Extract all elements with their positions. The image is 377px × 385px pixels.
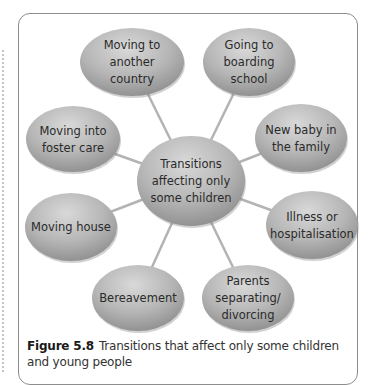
node-label: Illness or: [286, 210, 338, 224]
node-moving-into-foster-care: Moving intofoster care: [26, 106, 121, 174]
node-new-baby-in-the-family: New baby inthe family: [255, 104, 348, 174]
figure-number: Figure 5.8: [27, 339, 94, 353]
node-label: Going to: [225, 38, 274, 52]
node-moving-house: Moving house: [25, 193, 118, 263]
node-moving-to-another-country: Moving toanothercountry: [80, 28, 185, 98]
node-label: some children: [150, 191, 231, 205]
node-label: Transitions: [159, 157, 222, 171]
node-label: Parents: [227, 274, 270, 288]
node-label: another: [110, 55, 155, 69]
node-label: Bereavement: [99, 291, 177, 305]
node-center-transitions: Transitionsaffecting onlysome children: [137, 136, 246, 228]
node-label: New baby in: [265, 123, 336, 137]
node-label: divorcing: [222, 308, 275, 322]
node-label: hospitalisation: [270, 227, 354, 241]
node-label: Moving house: [31, 220, 111, 234]
node-label: foster care: [42, 141, 104, 155]
node-bereavement: Bereavement: [92, 265, 185, 333]
node-ellipse: [266, 191, 358, 259]
node-label: affecting only: [152, 174, 231, 188]
node-label: Moving into: [39, 124, 106, 138]
node-label: the family: [272, 140, 330, 154]
node-ellipse: [26, 106, 120, 172]
diagram-nodes: Moving toanothercountryGoing toboardings…: [25, 28, 359, 333]
figure-caption: Figure 5.8Transitions that affect only s…: [27, 338, 347, 370]
node-label: school: [231, 72, 268, 86]
node-parents-separating-divorcing: Parentsseparating/divorcing: [202, 265, 295, 333]
node-illness-or-hospitalisation: Illness orhospitalisation: [266, 191, 359, 261]
node-label: country: [110, 72, 154, 86]
node-label: boarding: [224, 55, 275, 69]
node-going-to-boarding-school: Going toboardingschool: [203, 28, 296, 98]
node-label: Moving to: [104, 38, 161, 52]
node-label: separating/: [215, 291, 280, 305]
node-ellipse: [255, 104, 347, 172]
